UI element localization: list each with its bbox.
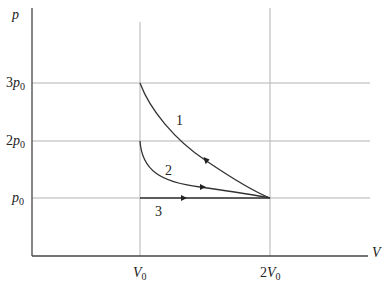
process-1-label: 1	[176, 114, 183, 128]
process-2-arrow-icon	[200, 184, 206, 190]
tick-symbol: V	[133, 265, 142, 280]
process-3-arrow-icon	[181, 195, 187, 201]
tick-subscript: 0	[276, 271, 281, 282]
tick-coef: 3	[6, 75, 13, 90]
x-tick-2v0: 2V0	[260, 266, 281, 282]
tick-subscript: 0	[19, 196, 24, 207]
y-tick-p0: p0	[12, 191, 24, 207]
pv-diagram	[0, 0, 383, 292]
tick-symbol: p	[13, 133, 20, 148]
tick-coef: 2	[6, 133, 13, 148]
y-axis-label: p	[12, 8, 19, 22]
tick-subscript: 0	[20, 81, 25, 92]
tick-coef: 2	[260, 265, 267, 280]
y-tick-3p0: 3p0	[6, 76, 25, 92]
tick-subscript: 0	[142, 271, 147, 282]
tick-symbol: p	[13, 75, 20, 90]
process-2-curve	[140, 141, 270, 198]
process-3-label: 3	[155, 205, 162, 219]
x-tick-v0: V0	[133, 266, 147, 282]
y-tick-2p0: 2p0	[6, 134, 25, 150]
tick-symbol: p	[12, 190, 19, 205]
tick-symbol: V	[267, 265, 276, 280]
x-axis-label: V	[372, 246, 381, 260]
tick-subscript: 0	[20, 139, 25, 150]
process-2-label: 2	[165, 164, 172, 178]
